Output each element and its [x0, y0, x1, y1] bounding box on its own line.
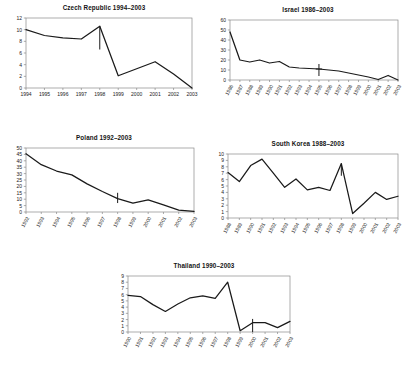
x-tick-label: 1998	[94, 92, 105, 97]
y-tick-label: 30	[6, 171, 22, 176]
y-tick-label: 40	[6, 158, 22, 163]
y-tick-label: 6	[6, 51, 22, 56]
plot-svg-poland	[6, 144, 202, 214]
y-tick-label: 9	[210, 158, 224, 163]
x-tick-label: 1998	[222, 336, 232, 348]
x-tick-label: 2001	[158, 216, 168, 228]
data-series-line	[230, 32, 398, 80]
x-tick-label: 1996	[323, 84, 333, 96]
x-tick-label: 1989	[234, 222, 244, 234]
x-tick-label: 1994	[20, 92, 31, 97]
x-tick-label: 1994	[172, 336, 182, 348]
y-tick-label: 9	[106, 274, 124, 279]
x-tick-label: 2001	[150, 92, 161, 97]
plot-area-poland: 05101520253035404550 1992199319941995199…	[6, 144, 202, 214]
y-tick-label: 0	[210, 216, 224, 221]
x-tick-label: 1997	[76, 92, 87, 97]
y-tick-label: 0	[6, 86, 22, 91]
x-tick-label: 1993	[36, 216, 46, 228]
x-tick-label: 1994	[290, 222, 300, 234]
x-tick-label: 1995	[313, 84, 323, 96]
x-tick-label: 1999	[353, 84, 363, 96]
chart-title-south-korea: South Korea 1988–2003	[210, 140, 406, 148]
y-tick-label: 45	[6, 152, 22, 157]
x-tick-label: 1993	[294, 84, 304, 96]
y-tick-label: 1	[210, 209, 224, 214]
y-tick-label: 2	[210, 203, 224, 208]
y-tick-label: 5	[6, 203, 22, 208]
y-tick-label: 3	[106, 311, 124, 316]
plot-svg-thailand	[106, 272, 302, 334]
x-tick-label: 1995	[66, 216, 76, 228]
x-tick-label: 2003	[392, 222, 402, 234]
data-series-line	[26, 26, 192, 88]
y-tick-label: 50	[6, 146, 22, 151]
y-tick-label: 0	[210, 78, 226, 83]
x-tick-label: 1992	[20, 216, 30, 228]
y-tick-label: 2	[6, 74, 22, 79]
x-tick-label: 2000	[131, 92, 142, 97]
x-tick-label: 1996	[82, 216, 92, 228]
x-tick-label: 1996	[57, 92, 68, 97]
x-tick-label: 1999	[127, 216, 137, 228]
x-tick-label: 2002	[173, 216, 183, 228]
chart-panel-israel: Israel 1986–2003 0102030405060 198619871…	[210, 6, 406, 128]
x-tick-label: 1997	[97, 216, 107, 228]
x-tick-label: 1998	[112, 216, 122, 228]
x-tick-label: 2002	[381, 222, 391, 234]
x-tick-label: 1992	[147, 336, 157, 348]
chart-panel-poland: Poland 1992–2003 05101520253035404550 19…	[6, 134, 202, 256]
y-tick-label: 60	[210, 18, 226, 23]
x-tick-label: 1990	[245, 222, 255, 234]
x-tick-label: 1990	[264, 84, 274, 96]
x-tick-label: 1995	[185, 336, 195, 348]
x-tick-label: 2002	[168, 92, 179, 97]
x-tick-label: 1993	[160, 336, 170, 348]
x-tick-label: 1999	[347, 222, 357, 234]
x-tick-label: 1994	[303, 84, 313, 96]
y-tick-label: 10	[6, 27, 22, 32]
y-tick-label: 6	[210, 177, 224, 182]
x-tick-label: 2000	[363, 84, 373, 96]
chart-title-israel: Israel 1986–2003	[210, 6, 406, 14]
x-tick-label: 1997	[210, 336, 220, 348]
x-tick-label: 1999	[235, 336, 245, 348]
plot-area-israel: 0102030405060 19861987198819891990199119…	[210, 16, 406, 82]
chart-panel-south-korea: South Korea 1988–2003 012345678910 19881…	[210, 140, 406, 262]
plot-area-south-korea: 012345678910 198819891990199119921993199…	[210, 150, 406, 220]
x-tick-label: 1991	[256, 222, 266, 234]
plot-area-thailand: 0123456789 19901991199219931994199519961…	[106, 272, 302, 334]
y-tick-label: 3	[210, 196, 224, 201]
data-series-line	[228, 159, 398, 213]
plot-svg-israel	[210, 16, 406, 82]
x-tick-label: 1990	[122, 336, 132, 348]
x-tick-label: 2000	[358, 222, 368, 234]
y-tick-label: 25	[6, 178, 22, 183]
x-tick-label: 2002	[272, 336, 282, 348]
x-tick-label: 1997	[324, 222, 334, 234]
y-tick-label: 5	[106, 298, 124, 303]
data-series-line	[26, 154, 194, 212]
x-tick-label: 1988	[244, 84, 254, 96]
y-tick-label: 20	[210, 58, 226, 63]
data-series-line	[128, 282, 290, 331]
y-tick-label: 12	[6, 16, 22, 21]
y-tick-label: 4	[106, 305, 124, 310]
x-tick-label: 2000	[247, 336, 257, 348]
y-tick-label: 10	[210, 152, 224, 157]
x-tick-label: 1997	[333, 84, 343, 96]
x-tick-label: 1986	[224, 84, 234, 96]
y-tick-label: 7	[210, 171, 224, 176]
x-tick-label: 2001	[373, 84, 383, 96]
y-tick-label: 30	[210, 48, 226, 53]
x-tick-label: 2002	[383, 84, 393, 96]
x-tick-label: 1995	[39, 92, 50, 97]
y-tick-label: 4	[210, 190, 224, 195]
y-tick-label: 40	[210, 38, 226, 43]
y-tick-label: 20	[6, 184, 22, 189]
x-tick-label: 1998	[336, 222, 346, 234]
y-tick-label: 15	[6, 190, 22, 195]
plot-svg-south-korea	[210, 150, 406, 220]
y-tick-label: 5	[210, 184, 224, 189]
x-tick-label: 1991	[274, 84, 284, 96]
